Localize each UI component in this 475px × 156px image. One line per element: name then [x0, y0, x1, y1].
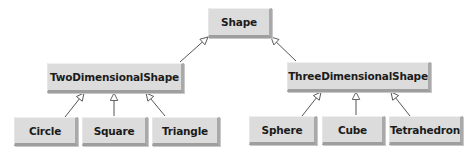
node-label: Square: [94, 125, 135, 137]
edge-circle-to-two-dimensional: [65, 93, 84, 117]
edge-two-dimensional-to-shape: [180, 37, 208, 62]
node-triangle: Triangle: [152, 117, 220, 146]
node-two-dimensional-shape: TwoDimensionalShape: [47, 63, 184, 93]
node-label: Shape: [221, 16, 257, 28]
node-cube: Cube: [322, 116, 385, 145]
class-hierarchy-diagram: Shape TwoDimensionalShape ThreeDimension…: [0, 0, 475, 156]
node-tetrahedron: Tetrahedron: [389, 116, 463, 145]
edge-three-dimensional-to-shape: [271, 37, 296, 61]
node-label: ThreeDimensionalShape: [288, 70, 428, 82]
edge-triangle-to-two-dimensional: [146, 93, 165, 116]
node-label: Tetrahedron: [390, 124, 460, 136]
node-circle: Circle: [14, 117, 78, 146]
node-shape: Shape: [208, 8, 272, 38]
node-label: Circle: [29, 125, 61, 137]
node-label: Triangle: [162, 125, 208, 137]
node-square: Square: [82, 117, 148, 146]
node-three-dimensional-shape: ThreeDimensionalShape: [287, 62, 431, 92]
node-label: Sphere: [262, 124, 303, 136]
node-label: Cube: [338, 124, 367, 136]
edge-sphere-to-three-dimensional: [302, 92, 321, 116]
node-sphere: Sphere: [249, 116, 317, 145]
edge-tetrahedron-to-three-dimensional: [391, 92, 410, 116]
node-label: TwoDimensionalShape: [50, 71, 179, 83]
